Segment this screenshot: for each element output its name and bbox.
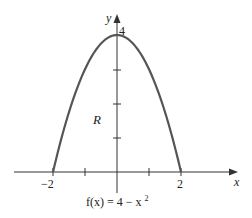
y-tick-label-4: 4 bbox=[119, 24, 125, 38]
function-label-lhs: f(x) = 4 − x bbox=[86, 195, 142, 209]
function-label: f(x) = 4 − x 2 bbox=[86, 194, 149, 209]
region-label: R bbox=[92, 112, 101, 127]
y-axis-arrow-icon bbox=[114, 14, 121, 23]
x-tick-label-neg2: −2 bbox=[41, 177, 54, 191]
chart: y 4 x −2 2 R f(x) = 4 − x 2 bbox=[0, 0, 252, 218]
x-tick-label-2: 2 bbox=[177, 177, 183, 191]
function-label-exponent: 2 bbox=[145, 194, 149, 203]
y-axis-label: y bbox=[105, 11, 112, 25]
x-axis-label: x bbox=[233, 175, 240, 189]
